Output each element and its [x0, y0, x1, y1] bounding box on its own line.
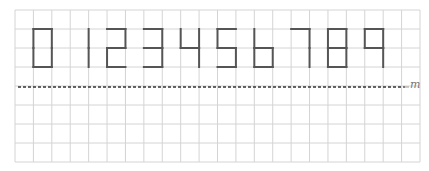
mirror-line-label: m: [410, 78, 420, 91]
digit-5: [218, 29, 236, 67]
grid-canvas: [0, 0, 429, 171]
digit-6: [254, 29, 272, 67]
digit-9: [365, 29, 383, 67]
grid-figure: m: [0, 0, 429, 171]
digit-3: [144, 29, 162, 67]
digit-8: [328, 29, 346, 67]
digit-4: [181, 29, 199, 67]
digit-2: [107, 29, 125, 67]
